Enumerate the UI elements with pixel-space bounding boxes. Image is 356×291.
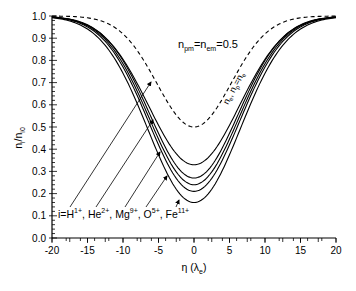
arrow-o: [146, 176, 167, 207]
y-axis-ticks: 0.00.10.20.30.40.50.60.70.80.91.0: [32, 11, 57, 244]
y-tick-label: 0.1: [32, 210, 46, 221]
x-tick-label: -20: [45, 245, 60, 256]
chart: 0.00.10.20.30.40.50.60.70.80.91.0 -20-15…: [0, 0, 356, 291]
ion-he: He: [88, 208, 102, 220]
x-tick-label: 0: [191, 245, 197, 256]
arrow-fe: [176, 200, 179, 207]
curve-n-e-n-p-n-e: [52, 16, 336, 127]
y-tick-label: 0.8: [32, 55, 46, 66]
parameter-annotation: npm=nem=0.5: [178, 38, 238, 53]
y-tick-label: 0.5: [32, 122, 46, 133]
ion-species-label: i=H1+, He2+, Mg9+, O5+, Fe11+: [58, 207, 189, 220]
ion-h: H: [66, 208, 74, 220]
y-tick-label: 0.7: [32, 77, 46, 88]
x-axis-label: η (λe): [182, 261, 207, 275]
x-tick-label: 15: [295, 245, 307, 256]
arrow-h: [70, 82, 151, 207]
x-tick-label: -5: [154, 245, 163, 256]
x-tick-label: 10: [259, 245, 271, 256]
y-tick-label: 0.2: [32, 188, 46, 199]
y-tick-label: 0.0: [32, 233, 46, 244]
arrows-layer: [70, 82, 179, 207]
x-tick-label: 5: [227, 245, 233, 256]
arrow-he: [96, 120, 153, 207]
dashed-curve-label: ne, np=ne: [221, 69, 248, 106]
y-axis-label: ni/ni0: [12, 127, 26, 149]
y-tick-label: 0.3: [32, 166, 46, 177]
x-tick-label: 20: [330, 245, 342, 256]
ion-fe: Fe: [166, 208, 178, 220]
x-tick-label: -10: [116, 245, 131, 256]
x-axis-ticks: -20-15-10-505101520: [45, 238, 342, 256]
arrow-mg: [125, 152, 160, 207]
ion-o: O: [144, 208, 152, 220]
x-tick-label: -15: [80, 245, 95, 256]
y-tick-label: 0.4: [32, 144, 46, 155]
y-tick-label: 0.6: [32, 99, 46, 110]
y-tick-label: 0.9: [32, 33, 46, 44]
ion-mg: Mg: [115, 208, 130, 220]
y-tick-label: 1.0: [32, 11, 46, 22]
